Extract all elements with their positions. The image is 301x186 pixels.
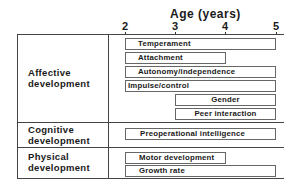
- bar-gender: Gender: [175, 94, 276, 106]
- category-physical-line1: Physical: [28, 151, 90, 162]
- bar-motor-development: Motor development: [125, 152, 226, 164]
- category-physical: Physical development: [28, 151, 90, 173]
- bar-peer-interaction: Peer interaction: [175, 108, 276, 120]
- axis-line: [17, 34, 284, 35]
- tick-label-4: 4: [219, 20, 231, 32]
- bottom-line: [17, 178, 284, 179]
- category-physical-line2: development: [28, 162, 90, 173]
- bar-autonomy-independence: Autonomy/independence: [125, 66, 276, 78]
- category-cognitive-line2: development: [28, 135, 90, 146]
- category-affective: Affective development: [28, 67, 90, 89]
- divider-cognitive-physical: [17, 147, 284, 148]
- category-affective-line1: Affective: [28, 67, 90, 78]
- divider-affective-cognitive: [17, 122, 284, 123]
- tick-label-3: 3: [169, 20, 181, 32]
- category-cognitive-line1: Cognitive: [28, 124, 90, 135]
- bar-attachment: Attachment: [125, 52, 226, 64]
- bar-impulse-control: Impulse/control: [125, 80, 276, 92]
- tick-label-2: 2: [119, 20, 131, 32]
- category-separator: [108, 34, 109, 179]
- bar-preoperational-intelligence: Preoperational intelligence: [125, 128, 276, 140]
- category-affective-line2: development: [28, 78, 90, 89]
- bar-temperament: Temperament: [125, 38, 276, 50]
- left-border: [17, 34, 18, 179]
- axis-title: Age (years): [170, 7, 241, 21]
- category-cognitive: Cognitive development: [28, 124, 90, 146]
- bar-growth-rate: Growth rate: [125, 165, 276, 177]
- tick-label-5: 5: [270, 20, 282, 32]
